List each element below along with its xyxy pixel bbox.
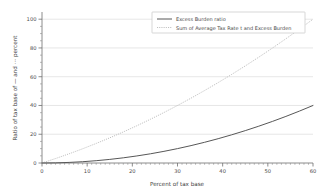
x-tick-label: 0 — [40, 168, 43, 174]
gridlines — [42, 19, 313, 134]
x-tick-label: 20 — [129, 168, 136, 174]
y-tick-label: 80 — [30, 45, 37, 51]
legend-label-1: Sum of Average Tax Rate t and Excess Bur… — [176, 25, 291, 32]
x-tick-label: 30 — [174, 168, 181, 174]
x-tick-label: 50 — [265, 168, 272, 174]
line-chart: 020406080100 0102030405060 Percent of ta… — [0, 0, 326, 195]
y-tick-label: 60 — [30, 74, 37, 80]
series-line-sum-average-tax-rate — [42, 19, 313, 163]
x-tick-labels: 0102030405060 — [40, 168, 316, 174]
x-axis-title: Percent of tax base — [150, 181, 205, 187]
y-tick-label: 100 — [27, 16, 37, 22]
x-axis — [42, 163, 313, 167]
y-tick-labels: 020406080100 — [27, 16, 37, 166]
y-tick-label: 20 — [30, 131, 37, 137]
x-tick-label: 60 — [310, 168, 317, 174]
y-axis-title: Ratio of tax base of — and ⋯ percent — [12, 35, 19, 141]
y-tick-label: 0 — [33, 160, 36, 166]
x-tick-label: 40 — [219, 168, 226, 174]
x-tick-label: 10 — [84, 168, 91, 174]
legend-label-0: Excess Burden ratio — [176, 16, 226, 22]
legend: Excess Burden ratio Sum of Average Tax R… — [152, 12, 305, 33]
y-axis — [39, 12, 43, 163]
y-tick-label: 40 — [30, 102, 37, 108]
chart-figure: 020406080100 0102030405060 Percent of ta… — [0, 0, 326, 195]
